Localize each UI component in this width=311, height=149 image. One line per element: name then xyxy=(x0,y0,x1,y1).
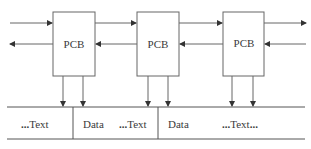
memory-segment-text-3: ...Text... xyxy=(222,118,258,130)
memory-segment-data-1: Data xyxy=(83,118,104,130)
pcb-label-1: PCB xyxy=(53,38,95,50)
memory-segment-data-2: Data xyxy=(168,118,189,130)
memory-segment-text-2: ...Text xyxy=(119,118,147,130)
memory-segment-text-1: ...Text xyxy=(21,118,49,130)
pcb-label-3: PCB xyxy=(223,37,265,49)
pcb-label-2: PCB xyxy=(137,38,179,50)
